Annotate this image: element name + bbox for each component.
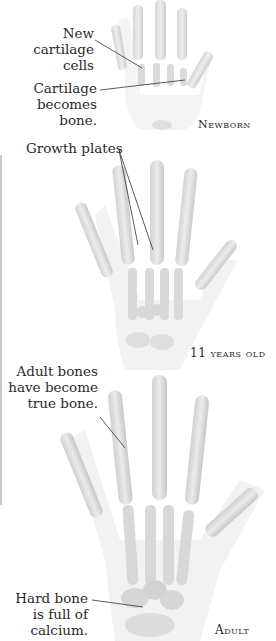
- label-line: cells: [2, 57, 94, 73]
- label-adult-true-bone: Adult bones have become true bone.: [2, 363, 98, 411]
- label-growth-plates: Growth plates: [26, 140, 123, 156]
- label-line: Cartilage: [2, 80, 97, 96]
- label-line: is full of: [2, 606, 88, 622]
- adult-hand: [59, 375, 265, 641]
- label-line: becomes bone.: [2, 96, 97, 128]
- label-cartilage-becomes-bone: Cartilage becomes bone.: [2, 80, 97, 128]
- label-line: Hard bone: [2, 590, 88, 606]
- label-hard-bone-calcium: Hard bone is full of calcium.: [2, 590, 88, 638]
- stage-label-newborn: Newborn: [198, 118, 251, 131]
- eleven-years-hand: [73, 160, 239, 370]
- stage-label-11-years: 11 years old: [190, 346, 266, 360]
- label-line: true bone.: [2, 395, 98, 411]
- stage-label-adult: Adult: [215, 623, 249, 637]
- label-line: have become: [2, 379, 98, 395]
- label-line: calcium.: [2, 622, 88, 638]
- newborn-hand: [111, 0, 215, 130]
- label-line: Adult bones: [2, 363, 98, 379]
- label-new-cartilage-cells: New cartilage cells: [2, 25, 94, 73]
- label-line: New cartilage: [2, 25, 94, 57]
